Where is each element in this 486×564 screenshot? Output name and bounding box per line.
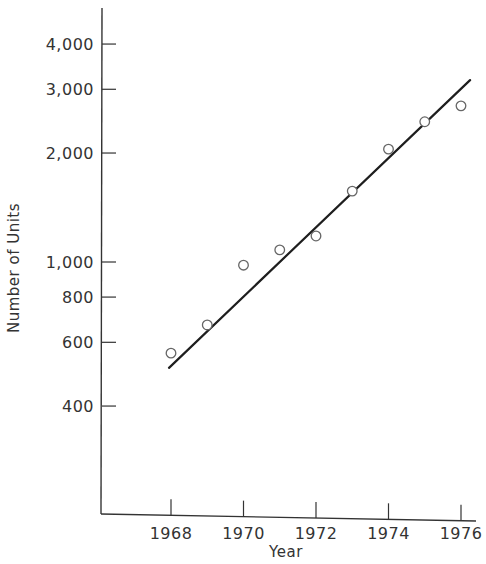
x-axis-title: Year (268, 543, 303, 561)
y-axis-line (101, 8, 102, 514)
y-tick-label: 600 (62, 333, 94, 352)
data-points (166, 101, 466, 358)
y-axis: 4006008001,0002,0003,0004,000 (46, 8, 116, 514)
x-tick-label: 1974 (367, 524, 410, 543)
y-tick-label: 4,000 (46, 35, 94, 54)
data-point (311, 231, 321, 241)
x-tick-label: 1972 (295, 524, 338, 543)
data-point (239, 260, 249, 270)
y-tick-label: 3,000 (46, 80, 94, 99)
data-point (384, 144, 394, 154)
data-point (456, 101, 466, 111)
data-point (275, 245, 285, 255)
data-point (166, 348, 176, 358)
y-tick-label: 800 (62, 288, 94, 307)
data-point (420, 117, 430, 127)
x-axis: 19681970197219741976 (101, 499, 482, 543)
data-point (347, 186, 357, 196)
x-axis-line (101, 514, 476, 521)
x-tick-label: 1976 (440, 524, 483, 543)
y-tick-label: 400 (62, 397, 94, 416)
chart: 4006008001,0002,0003,0004,000 1968197019… (0, 0, 486, 564)
x-tick-label: 1968 (150, 524, 193, 543)
x-tick-label: 1970 (222, 524, 265, 543)
y-tick-label: 2,000 (46, 144, 94, 163)
y-axis-title: Number of Units (5, 203, 23, 333)
y-tick-label: 1,000 (46, 253, 94, 272)
data-point (202, 320, 212, 330)
